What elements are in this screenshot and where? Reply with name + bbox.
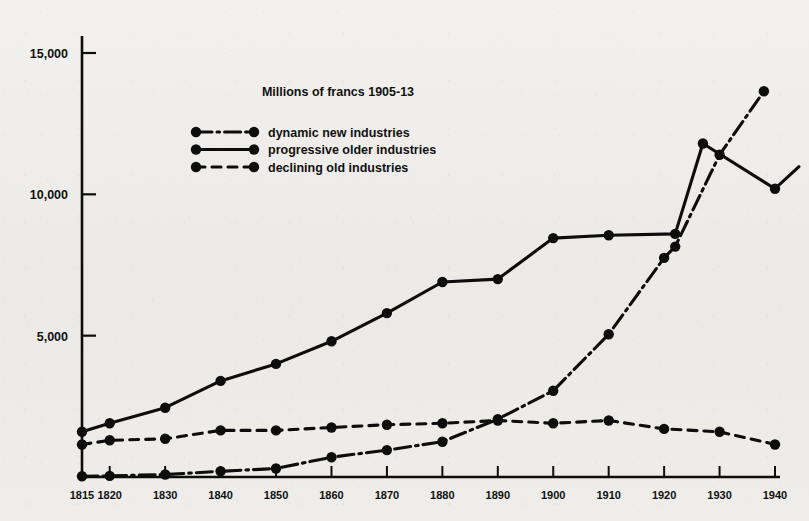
data-point-marker xyxy=(759,86,769,96)
data-point-marker xyxy=(493,415,503,425)
x-axis-tick-labels: 1815182018301840185018601870188018901900… xyxy=(70,489,787,501)
data-point-marker xyxy=(770,184,780,194)
data-point-marker xyxy=(271,463,281,473)
legend-item-2[interactable]: declining old industries xyxy=(191,161,409,175)
legend-marker-right xyxy=(249,162,259,172)
data-point-marker xyxy=(77,427,87,437)
data-point-marker xyxy=(698,138,708,148)
data-point-marker xyxy=(271,425,281,435)
line-chart: 5,00010,00015,000 1815182018301840185018… xyxy=(0,0,809,521)
series-line-2 xyxy=(82,421,775,445)
x-axis-tick-label: 1900 xyxy=(541,489,565,501)
series-line-1 xyxy=(82,144,775,432)
data-point-marker xyxy=(604,329,614,339)
data-point-marker xyxy=(670,241,680,251)
legend-marker-right xyxy=(249,144,259,154)
x-axis-tick-label: 1930 xyxy=(707,489,731,501)
data-point-marker xyxy=(659,253,669,263)
data-point-marker xyxy=(437,418,447,428)
data-point-marker xyxy=(160,469,170,479)
data-point-marker xyxy=(437,277,447,287)
legend-marker-left xyxy=(191,144,201,154)
x-axis-tick-label: 1920 xyxy=(652,489,676,501)
legend-marker-left xyxy=(191,127,201,137)
data-point-marker xyxy=(770,439,780,449)
x-axis-tick-label: 1870 xyxy=(375,489,399,501)
x-axis-tick-label: 1815 xyxy=(70,489,94,501)
x-axis-tick-label: 1890 xyxy=(486,489,510,501)
chart-plot-area: 5,00010,00015,000 1815182018301840185018… xyxy=(0,0,809,521)
data-point-marker xyxy=(382,420,392,430)
x-axis-tick-label: 1820 xyxy=(97,489,121,501)
data-point-marker xyxy=(548,233,558,243)
legend-item-1[interactable]: progressive older industries xyxy=(191,143,436,157)
data-point-marker xyxy=(604,230,614,240)
data-point-marker xyxy=(77,471,87,481)
data-point-marker xyxy=(659,424,669,434)
y-axis-tick-label: 15,000 xyxy=(30,47,68,61)
chart-axes xyxy=(81,36,780,477)
data-point-marker xyxy=(382,308,392,318)
x-axis-tick-label: 1910 xyxy=(596,489,620,501)
x-axis-tick-label: 1860 xyxy=(319,489,343,501)
data-point-marker xyxy=(326,336,336,346)
data-point-marker xyxy=(105,418,115,428)
data-point-marker xyxy=(215,466,225,476)
data-point-marker xyxy=(105,471,115,481)
chart-title-group: Millions of francs 1905-13 xyxy=(262,85,414,99)
data-point-marker xyxy=(105,435,115,445)
data-point-marker xyxy=(271,359,281,369)
data-point-marker xyxy=(77,439,87,449)
x-axis-tick-label: 1880 xyxy=(430,489,454,501)
x-axis-tick-label: 1830 xyxy=(153,489,177,501)
y-axis-tick-label: 10,000 xyxy=(30,188,68,202)
y-axis-tick-labels: 5,00010,00015,000 xyxy=(30,47,68,344)
x-axis-tick-label: 1940 xyxy=(763,489,787,501)
data-point-marker xyxy=(215,376,225,386)
data-point-marker xyxy=(670,229,680,239)
data-point-marker xyxy=(326,422,336,432)
legend-item-0[interactable]: dynamic new industries xyxy=(191,126,410,140)
data-point-marker xyxy=(548,418,558,428)
legend-label: declining old industries xyxy=(268,161,408,175)
data-point-marker xyxy=(604,415,614,425)
data-point-marker xyxy=(714,427,724,437)
data-point-marker xyxy=(437,437,447,447)
chart-legend: dynamic new industriesprogressive older … xyxy=(191,126,436,175)
chart-title: Millions of francs 1905-13 xyxy=(262,85,414,99)
data-point-marker xyxy=(160,434,170,444)
legend-marker-right xyxy=(249,127,259,137)
data-point-marker xyxy=(548,386,558,396)
legend-label: dynamic new industries xyxy=(268,126,410,140)
data-point-marker xyxy=(493,274,503,284)
x-axis-tick-label: 1840 xyxy=(208,489,232,501)
data-point-marker xyxy=(382,445,392,455)
data-point-marker xyxy=(160,403,170,413)
data-point-marker xyxy=(326,452,336,462)
x-axis-tick-label: 1850 xyxy=(264,489,288,501)
data-point-marker xyxy=(215,425,225,435)
data-point-marker xyxy=(714,150,724,160)
legend-label: progressive older industries xyxy=(268,143,436,157)
y-axis-tick-label: 5,000 xyxy=(37,330,68,344)
legend-marker-left xyxy=(191,162,201,172)
